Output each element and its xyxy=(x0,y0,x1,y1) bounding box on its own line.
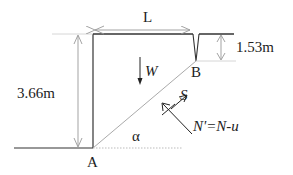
normal-arrow-icon xyxy=(163,104,192,134)
crack-depth-label: 1.53m xyxy=(236,39,274,55)
weight-label: W xyxy=(145,63,159,79)
wall-height-label: 3.66m xyxy=(17,85,55,101)
shear-label: S xyxy=(180,87,188,103)
tension-crack xyxy=(193,34,199,61)
weight-arrowhead-icon xyxy=(138,78,143,85)
slope-wedge-diagram: L 3.66m 1.53m W B S N'=N-u α A xyxy=(0,0,293,175)
slope-angle-label: α xyxy=(132,128,140,144)
point-a-label: A xyxy=(87,154,98,170)
point-b-label: B xyxy=(191,64,201,80)
normal-force-label: N'=N-u xyxy=(192,118,239,134)
length-label: L xyxy=(143,9,152,25)
